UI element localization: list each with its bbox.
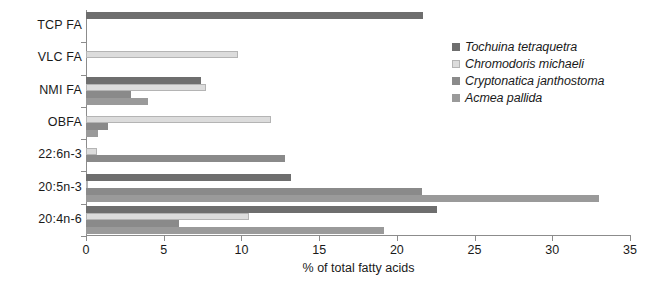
bar xyxy=(86,12,423,19)
legend-swatch-icon xyxy=(452,94,460,102)
x-tick xyxy=(475,236,476,241)
x-tick-label: 10 xyxy=(221,243,261,257)
x-axis-title: % of total fatty acids xyxy=(86,261,631,275)
x-tick-label: 20 xyxy=(377,243,417,257)
bar xyxy=(86,148,97,155)
legend-swatch-icon xyxy=(452,43,460,51)
bar xyxy=(86,98,148,105)
legend-label: Chromodoris michaeli xyxy=(465,57,584,71)
bar-group xyxy=(86,171,630,203)
x-tick-label: 0 xyxy=(66,243,106,257)
x-tick xyxy=(241,236,242,241)
x-tick-label: 30 xyxy=(532,243,572,257)
x-tick xyxy=(397,236,398,241)
legend: Tochuina tetraquetraChromodoris michaeli… xyxy=(452,38,657,106)
x-tick-label: 5 xyxy=(144,243,184,257)
bar xyxy=(86,181,88,188)
legend-label: Tochuina tetraquetra xyxy=(465,40,577,54)
bar xyxy=(86,195,599,202)
bar xyxy=(86,77,201,84)
legend-item[interactable]: Tochuina tetraquetra xyxy=(452,38,657,55)
bar-group xyxy=(86,107,630,139)
bar xyxy=(86,206,437,213)
category-label: OBFA xyxy=(2,115,82,129)
legend-swatch-icon xyxy=(452,60,460,68)
legend-item[interactable]: Cryptonatica janthostoma xyxy=(452,72,657,89)
legend-label: Acmea pallida xyxy=(465,91,542,105)
x-tick xyxy=(86,236,87,241)
bar xyxy=(86,91,131,98)
legend-item[interactable]: Acmea pallida xyxy=(452,89,657,106)
bar-group xyxy=(86,204,630,236)
category-axis: TCP FAVLC FANMI FAOBFA22:6n-320:5n-320:4… xyxy=(0,10,82,236)
x-tick xyxy=(164,236,165,241)
bar xyxy=(86,51,238,58)
legend-label: Cryptonatica janthostoma xyxy=(465,74,604,88)
bar-group xyxy=(86,139,630,171)
bar xyxy=(86,213,249,220)
category-label: VLC FA xyxy=(2,50,82,64)
bar xyxy=(86,123,108,130)
bar xyxy=(86,116,271,123)
legend-item[interactable]: Chromodoris michaeli xyxy=(452,55,657,72)
x-tick xyxy=(552,236,553,241)
fatty-acid-bar-chart: TCP FAVLC FANMI FAOBFA22:6n-320:5n-320:4… xyxy=(0,0,661,286)
bar xyxy=(86,130,98,137)
x-tick xyxy=(630,236,631,241)
x-tick-label: 35 xyxy=(610,243,650,257)
x-tick xyxy=(319,236,320,241)
bar xyxy=(86,220,179,227)
category-label: 20:5n-3 xyxy=(2,180,82,194)
bar xyxy=(86,174,291,181)
bar xyxy=(86,155,285,162)
x-tick-label: 25 xyxy=(455,243,495,257)
category-label: 20:4n-6 xyxy=(2,212,82,226)
category-label: TCP FA xyxy=(2,18,82,32)
legend-swatch-icon xyxy=(452,77,460,85)
bar xyxy=(86,227,384,234)
category-label: 22:6n-3 xyxy=(2,147,82,161)
x-tick-label: 15 xyxy=(299,243,339,257)
bar xyxy=(86,84,206,91)
bar xyxy=(86,188,422,195)
category-label: NMI FA xyxy=(2,83,82,97)
